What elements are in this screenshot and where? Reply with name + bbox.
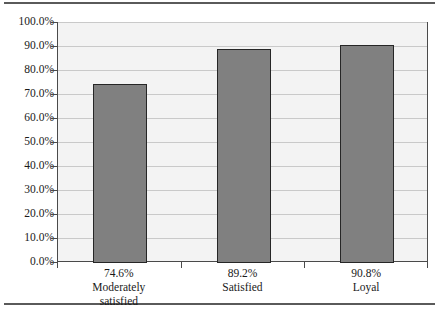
y-axis-tick-label: 50.0% [0,136,54,148]
y-axis-tick-label: 20.0% [0,208,54,220]
x-axis-category-label: 89.2% Satisfied [181,266,305,294]
bar [93,84,147,263]
plot-area [57,22,428,262]
x-axis-category-label: 90.8% Loyal [304,266,428,294]
y-axis-tick-label: 80.0% [0,64,54,76]
y-axis-tick-label: 70.0% [0,88,54,100]
bar [217,49,271,263]
bar-chart-figure: 0.0%10.0%20.0%30.0%40.0%50.0%60.0%70.0%8… [0,0,439,316]
y-axis-tick-label: 10.0% [0,232,54,244]
y-axis-tick-label: 60.0% [0,112,54,124]
y-axis-tick-label: 30.0% [0,184,54,196]
y-axis-tick-label: 0.0% [0,256,54,268]
y-axis-tick-label: 100.0% [0,16,54,28]
y-axis-tick-label: 40.0% [0,160,54,172]
page-rule-top [4,2,435,4]
gridline [58,22,427,23]
y-axis-tick-label: 90.0% [0,40,54,52]
bar [340,45,394,263]
x-axis-category-label: 74.6% Moderately satisfied [57,266,181,308]
